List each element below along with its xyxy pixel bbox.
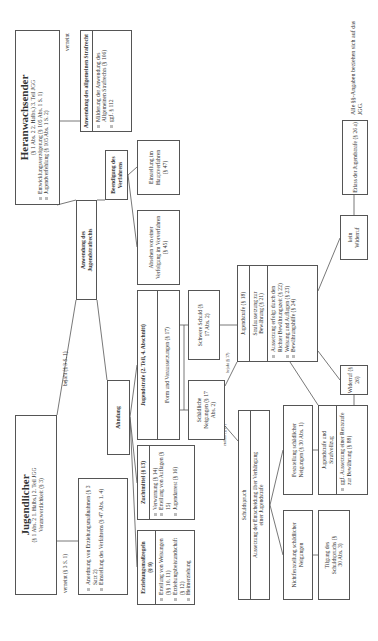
feststellung-box: Feststellung schädlicher Neigungen (§ 30… [283, 405, 313, 495]
jugendlicher-verantwortlichkeit: Verantwortlichkeit (§ 3) [38, 420, 45, 590]
beendigung-label: Beendigung des Verfahrens [106, 151, 127, 199]
allgemeines-strafrecht-item: ggf. § 112 [108, 34, 115, 128]
ahndung-box: Ahndung [107, 380, 130, 455]
verneint-35-label: verneint (§ 3 S. 1) [62, 554, 68, 593]
jugendlicher-subtitle: (§ 1 Abs. 2 1. Halbs.) 2. Teil JGG [31, 420, 38, 590]
massnahme-item: Anordnung von Erziehungsmaßnahmen (§ 3 S… [85, 482, 98, 591]
bejaht-label: bejaht (§ 3 S. 1) [62, 351, 68, 386]
erziehungsmassregeln-item: Erziehungsbeistandschaft (§ 12) [172, 534, 185, 601]
zuchtmittel-item: Jugendarrest (§ 16) [172, 449, 179, 516]
schwere-schuld-box: Schwere Schuld (§ 17 Abs. 2) [188, 290, 220, 360]
diagram-canvas: Heranwachsender (§ 1 Abs. 2 2. Halbs.) 3… [0, 0, 378, 641]
heranwachsender-title: Heranwachsender [18, 35, 30, 200]
jugendstrafe-18-item: Aussetzung erfolgt durch den Richter Bew… [270, 269, 283, 358]
einstellung-hauptverfahren-label: Einstellung im Hauptverfahren (§ 47) [138, 141, 179, 194]
erziehungsmassregeln-item: Erteilung von Weisungen (§§ 10, 11) [158, 534, 171, 601]
footnote: Alle §§-Angaben beziehen sich auf das JG… [350, 15, 364, 115]
anwendung-jugendstrafrecht-box: Anwendung des Jugendstrafrechts [76, 200, 97, 300]
tilgung-box: Tilgung des Schuldspruchs (§ 30 Abs. 3) [318, 510, 350, 600]
absehen-box: Absehen von einer Verfolgung im Vorverfa… [137, 210, 180, 285]
heranwachsender-item: Jugendverfehlung (§ 105 Abs. 1 S. 2) [43, 35, 50, 200]
feststellung-label: Feststellung schädlicher Neigungen (§ 30… [284, 406, 312, 494]
erlass-label: Erlass der Jugendstrafe (§ 26 a) [343, 121, 367, 194]
verneint-label: verneint [64, 33, 70, 51]
ahndung-label: Ahndung [108, 381, 129, 454]
beendigung-box: Beendigung des Verfahrens [105, 150, 128, 200]
jugendstrafe-18-title: Jugendstrafe (§ 18) [238, 266, 250, 361]
allgemeines-strafrecht-item: Milderung der Anwendung des Allgemeinen … [95, 34, 108, 128]
bejaht-17-label: bejaht (§ 17) [225, 353, 230, 373]
heranwachsender-box: Heranwachsender (§ 1 Abs. 2 2. Halbs.) 3… [15, 30, 60, 205]
allgemeines-strafrecht-box: Anwendung des allgemeinen Strafrecht Mil… [80, 30, 132, 132]
jugendstrafe-18-item: Bewährungshilfe (§ 24) [290, 269, 297, 358]
zuchtmittel-item: Verwarnung (§ 14) [152, 449, 159, 516]
jugendstrafe-teil-box: Jugendstrafe (2. Teil, 4. Abschnitt) For… [137, 290, 180, 440]
erlass-box: Erlass der Jugendstrafe (§ 26 a) [342, 120, 368, 195]
allgemeines-strafrecht-title: Anwendung des allgemeinen Strafrecht [81, 31, 93, 131]
schwere-schuld-label: Schwere Schuld (§ 17 Abs. 2) [189, 291, 219, 359]
strafvollzug-title: Jugendstrafe und Strafvollzug [319, 406, 337, 494]
widerruf-label: Widerruf (§ 26) [341, 366, 367, 394]
absehen-label: Absehen von einer Verfolgung im Vorverfa… [138, 211, 179, 284]
nichtfeststellung-box: Nichtfeststellung schädlicher Neigungen [283, 510, 313, 600]
jugendstrafe-18-item: Weisung und Auflagen (§ 23) [284, 269, 291, 358]
kein-widerruf-label: kein Widerruf [341, 216, 367, 259]
schaedliche-neigungen-box: Schädliche Neigungen (§ 17 Abs. 2) [188, 380, 225, 440]
jugendlicher-title: Jugendlicher [19, 420, 31, 590]
strafvollzug-item: ggf. Aussetzung einer Reststrafe zur Bew… [339, 409, 352, 491]
erziehungsmassregeln-title: Erziehungsmaßregeln (§ 9) [138, 531, 156, 604]
tilgung-label: Tilgung des Schuldspruchs (§ 30 Abs. 3) [319, 511, 349, 599]
jugendstrafe-teil-title: Jugendstrafe (2. Teil, 4. Abschnitt) [138, 291, 158, 439]
einstellung-hauptverfahren-box: Einstellung im Hauptverfahren (§ 47) [137, 140, 180, 195]
schuldspruch-box: Schuldspruch Aussetzung der Entscheidung… [238, 410, 270, 600]
jugendlicher-massnahmen-box: Anordnung von Erziehungsmaßnahmen (§ 3 S… [78, 478, 128, 595]
anwendung-jugendstrafrecht-label: Anwendung des Jugendstrafrechts [77, 201, 96, 299]
schuldspruch-title: Schuldspruch [239, 411, 251, 599]
zuchtmittel-item: Erteilung von Auflagen (§ 15) [158, 449, 171, 516]
erziehungsmassregeln-box: Erziehungsmaßregeln (§ 9) Erteilung von … [137, 530, 195, 605]
jugendstrafe-teil-row: Form und Voraussetzungen (§ 17) [158, 291, 171, 439]
nichtfeststellung-label: Nichtfeststellung schädlicher Neigungen [284, 511, 312, 599]
heranwachsender-subtitle: (§ 1 Abs. 2 2. Halbs.) 3. Teil JGG [30, 35, 37, 200]
jugendlicher-box: Jugendlicher (§ 1 Abs. 2 1. Halbs.) 2. T… [15, 415, 57, 595]
heranwachsender-item: Entwicklungsverzögerung (§ 105 Abs. 1 S.… [37, 35, 44, 200]
schaedliche-neigungen-label: Schädliche Neigungen (§ 17 Abs. 2) [189, 381, 224, 439]
jugendstrafe-18-box: Jugendstrafe (§ 18) Strafaussetzung zur … [237, 265, 318, 362]
widerruf-box: Widerruf (§ 26) [340, 365, 368, 395]
massnahme-item: Einstellung des Verfahrens (§ 47 Abs. 1,… [98, 482, 105, 591]
kein-widerruf-box: kein Widerruf [340, 215, 368, 260]
jugendstrafe-18-row: Strafaussetzung zur Bewährung (§ 21) [250, 266, 268, 361]
schuldspruch-row: Aussetzung der Entscheidung über Verhäng… [251, 411, 266, 599]
zuchtmittel-title: Zuchtmittel (§ 13) [138, 446, 150, 519]
erziehungsmassregeln-item: Heimerziehung [185, 534, 192, 601]
zuchtmittel-box: Zuchtmittel (§ 13) Verwarnung (§ 14) Ert… [137, 445, 195, 520]
strafvollzug-box: Jugendstrafe und Strafvollzug ggf. Ausse… [318, 405, 368, 495]
